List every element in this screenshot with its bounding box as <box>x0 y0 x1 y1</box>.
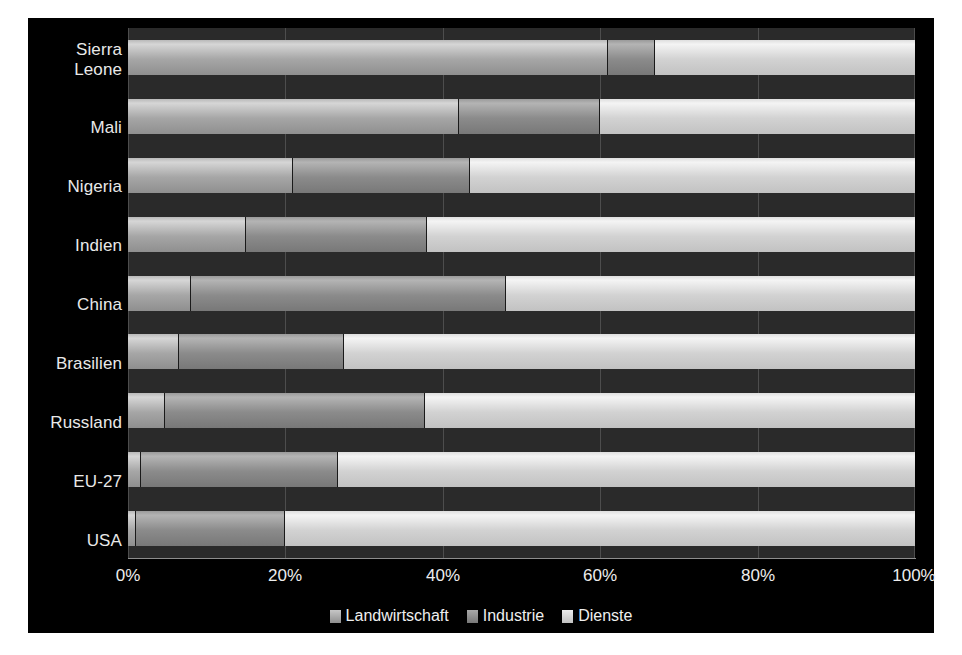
bar-segment-agriculture[interactable] <box>128 334 179 369</box>
bar-segment-services[interactable] <box>285 511 915 546</box>
x-axis-line <box>128 558 916 559</box>
bar-segment-agriculture[interactable] <box>128 452 141 487</box>
bar-segment-services[interactable] <box>600 99 915 134</box>
bar-segment-services[interactable] <box>427 217 915 252</box>
category-label-sierra-leone: Sierra Leone <box>28 40 122 80</box>
bar-segment-industry[interactable] <box>165 393 425 428</box>
xtick-label-0: 0% <box>93 566 163 586</box>
legend-swatch-industry-icon <box>467 610 478 623</box>
chart-panel: Sierra Leone Mali Nigeria Indien China B… <box>28 18 934 633</box>
xtick-label-80: 80% <box>723 566 793 586</box>
bar-segment-industry[interactable] <box>459 99 601 134</box>
bar-segment-agriculture[interactable] <box>128 217 246 252</box>
bar-segment-services[interactable] <box>470 158 915 193</box>
bar-segment-industry[interactable] <box>141 452 338 487</box>
legend-label-industry: Industrie <box>483 607 544 625</box>
bar-segment-industry[interactable] <box>246 217 427 252</box>
legend-item-agriculture[interactable]: Landwirtschaft <box>330 607 449 625</box>
bar-row <box>128 511 915 546</box>
xtick-label-60: 60% <box>565 566 635 586</box>
category-label-russland: Russland <box>28 413 122 433</box>
legend-item-industry[interactable]: Industrie <box>467 607 544 625</box>
bar-segment-industry[interactable] <box>608 40 655 75</box>
bar-segment-industry[interactable] <box>179 334 344 369</box>
xtick-label-20: 20% <box>250 566 320 586</box>
plot-area <box>128 28 915 558</box>
xtick-label-40: 40% <box>408 566 478 586</box>
bar-segment-agriculture[interactable] <box>128 158 293 193</box>
category-label-indien: Indien <box>28 236 122 256</box>
category-label-china: China <box>28 295 122 315</box>
category-axis: Sierra Leone Mali Nigeria Indien China B… <box>28 18 128 558</box>
bar-segment-industry[interactable] <box>136 511 286 546</box>
bar-segment-services[interactable] <box>506 276 915 311</box>
legend-swatch-agriculture-icon <box>330 610 341 623</box>
bar-row <box>128 393 915 428</box>
legend-label-services: Dienste <box>578 607 632 625</box>
bar-row <box>128 276 915 311</box>
category-label-usa: USA <box>28 531 122 551</box>
xtick-label-100: 100% <box>879 566 949 586</box>
legend-item-services[interactable]: Dienste <box>562 607 632 625</box>
category-label-mali: Mali <box>28 118 122 138</box>
bar-segment-services[interactable] <box>425 393 915 428</box>
bar-segment-industry[interactable] <box>293 158 470 193</box>
bar-segment-agriculture[interactable] <box>128 276 191 311</box>
bar-segment-agriculture[interactable] <box>128 99 459 134</box>
category-label-nigeria: Nigeria <box>28 177 122 197</box>
legend-label-agriculture: Landwirtschaft <box>346 607 449 625</box>
bar-row <box>128 40 915 75</box>
category-label-eu-27: EU-27 <box>28 472 122 492</box>
legend-swatch-services-icon <box>562 610 573 623</box>
chart-root: Sierra Leone Mali Nigeria Indien China B… <box>0 0 962 655</box>
bar-segment-agriculture[interactable] <box>128 40 608 75</box>
chart-legend: Landwirtschaft Industrie Dienste <box>28 604 934 628</box>
bar-segment-agriculture[interactable] <box>128 393 165 428</box>
bar-segment-services[interactable] <box>338 452 915 487</box>
bar-segment-services[interactable] <box>344 334 915 369</box>
bar-segment-industry[interactable] <box>191 276 506 311</box>
bar-row <box>128 158 915 193</box>
bar-segment-agriculture[interactable] <box>128 511 136 546</box>
bar-row <box>128 99 915 134</box>
bar-row <box>128 334 915 369</box>
bar-row <box>128 452 915 487</box>
category-label-brasilien: Brasilien <box>28 354 122 374</box>
bar-segment-services[interactable] <box>655 40 915 75</box>
bar-row <box>128 217 915 252</box>
